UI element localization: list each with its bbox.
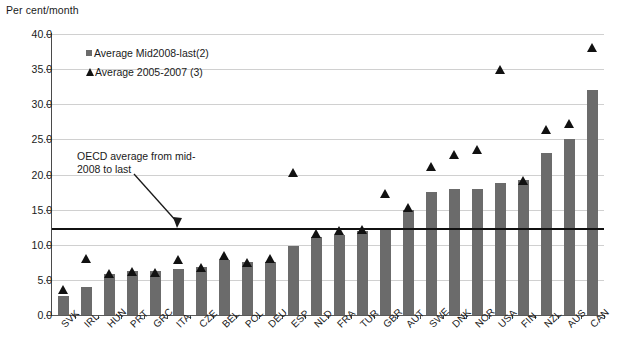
bar xyxy=(541,153,553,315)
data-point-marker xyxy=(104,269,114,278)
bar xyxy=(81,287,93,315)
data-point-marker xyxy=(242,258,252,267)
bar xyxy=(127,271,139,315)
y-axis-tick-mark xyxy=(46,139,51,140)
triangle-icon xyxy=(86,68,94,76)
bar xyxy=(495,183,507,315)
data-point-marker xyxy=(150,268,160,277)
legend-label-markers: Average 2005-2007 (3) xyxy=(95,66,203,78)
data-point-marker xyxy=(472,145,482,154)
bar xyxy=(288,246,300,315)
legend-label-bars: Average Mid2008-last(2) xyxy=(94,47,209,59)
data-point-marker xyxy=(196,263,206,272)
data-point-marker xyxy=(541,125,551,134)
gridline xyxy=(52,104,604,105)
y-axis-tick-mark xyxy=(46,245,51,246)
data-point-marker xyxy=(380,189,390,198)
bar xyxy=(334,235,346,315)
gridline xyxy=(52,139,604,140)
y-axis-tick-mark xyxy=(46,315,51,316)
legend-item-markers: Average 2005-2007 (3) xyxy=(86,64,209,79)
data-point-marker xyxy=(265,254,275,263)
down-right-arrow-icon xyxy=(132,172,192,232)
y-axis-tick-mark xyxy=(46,34,51,35)
gridline xyxy=(52,34,604,35)
bar xyxy=(426,192,438,315)
bar xyxy=(357,231,369,315)
bar xyxy=(173,269,185,315)
bar xyxy=(311,237,323,315)
y-axis-tick-mark xyxy=(46,104,51,105)
annotation-line-1: OECD average from mid- xyxy=(77,150,207,163)
y-axis-unit-label: Per cent/month xyxy=(6,4,79,16)
y-axis-tick-mark xyxy=(46,175,51,176)
data-point-marker xyxy=(426,162,436,171)
bar xyxy=(472,189,484,315)
data-point-marker xyxy=(173,255,183,264)
data-point-marker xyxy=(288,168,298,177)
bar xyxy=(196,267,208,315)
bar xyxy=(242,262,254,315)
data-point-marker xyxy=(449,150,459,159)
bar xyxy=(380,229,392,315)
data-point-marker xyxy=(495,65,505,74)
data-point-marker xyxy=(311,229,321,238)
data-point-marker xyxy=(58,285,68,294)
bar xyxy=(265,262,277,315)
data-point-marker xyxy=(518,176,528,185)
legend-item-bars: Average Mid2008-last(2) xyxy=(86,45,209,60)
data-point-marker xyxy=(219,251,229,260)
bar xyxy=(219,260,231,315)
y-axis-tick-mark xyxy=(46,69,51,70)
bar xyxy=(403,210,415,315)
data-point-marker xyxy=(127,267,137,276)
bar xyxy=(518,180,530,315)
y-axis-tick-mark xyxy=(46,210,51,211)
chart-container: Per cent/month 0.05.010.015.020.025.030.… xyxy=(0,0,617,360)
data-point-marker xyxy=(564,119,574,128)
bar xyxy=(449,189,461,315)
data-point-marker xyxy=(357,225,367,234)
data-point-marker xyxy=(587,43,597,52)
bar xyxy=(150,271,162,315)
bar xyxy=(104,274,116,315)
chart-legend: Average Mid2008-last(2) Average 2005-200… xyxy=(86,45,209,83)
data-point-marker xyxy=(403,203,413,212)
square-icon xyxy=(86,50,92,56)
bar xyxy=(587,90,599,315)
data-point-marker xyxy=(81,254,91,263)
y-axis-tick-mark xyxy=(46,280,51,281)
